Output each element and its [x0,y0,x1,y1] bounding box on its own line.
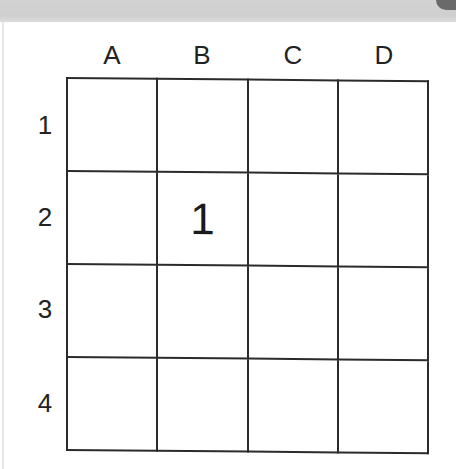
row-label-1: 1 [30,110,60,140]
cell-a3[interactable] [67,264,157,358]
cell-b4[interactable] [157,358,248,452]
cell-a2[interactable] [67,171,157,265]
grid-row-4 [67,357,428,453]
grid-row-2: 1 [67,171,428,267]
grid-row-3 [67,264,428,360]
column-label-a: A [66,40,158,70]
top-scan-band [0,0,456,22]
cell-d4[interactable] [338,359,428,453]
cell-d2[interactable] [338,173,428,267]
cell-d3[interactable] [338,266,428,360]
cell-c1[interactable] [248,80,338,174]
grid-row-1 [67,78,428,174]
cell-d1[interactable] [338,80,428,174]
cell-b2[interactable]: 1 [157,172,248,266]
row-label-3: 3 [30,294,60,324]
row-label-2: 2 [30,202,60,232]
cell-b1[interactable] [157,79,248,173]
column-label-b: B [156,40,248,70]
cell-c3[interactable] [248,266,338,360]
cell-b3[interactable] [157,265,248,359]
cell-c4[interactable] [248,359,338,453]
left-page-edge [2,22,4,469]
row-label-4: 4 [30,388,60,418]
cell-c2[interactable] [248,173,338,267]
column-label-d: D [338,40,430,70]
cell-a1[interactable] [67,78,157,172]
column-label-c: C [247,40,339,70]
cell-a4[interactable] [67,357,157,451]
puzzle-grid: 1 [66,77,429,454]
